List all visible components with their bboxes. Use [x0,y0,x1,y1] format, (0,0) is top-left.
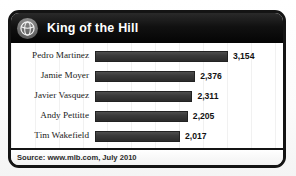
sphere-logo-icon [17,18,38,39]
chart-footer: Source: www.mlb.com, July 2010 [11,148,283,165]
chart-header: King of the Hill [11,13,283,43]
bar-row: Javier Vasquez 2,311 [11,87,283,106]
page-title: King of the Hill [47,22,138,35]
bar-rows: Pedro Martinez 3,154 Jamie Moyer 2,376 J… [11,43,283,148]
bar-row: Andy Pettitte 2,205 [11,107,283,126]
bar-label: Tim Wakefield [11,131,95,140]
bar-row: Pedro Martinez 3,154 [11,47,283,66]
source-note: Source: www.mlb.com, July 2010 [17,154,137,162]
bar-value-label: 2,311 [197,92,218,101]
bar-label: Jamie Moyer [11,71,95,80]
bar-value-label: 2,017 [185,132,207,141]
bar-value-label: 2,205 [193,112,215,121]
bar-fill [95,91,192,102]
chart-plot-area: Pedro Martinez 3,154 Jamie Moyer 2,376 J… [11,43,283,148]
bar-track: 2,376 [95,67,283,86]
bar-fill [95,51,228,62]
bar-label: Andy Pettitte [11,111,95,120]
chart-card: King of the Hill Pedro Martinez 3,154 Ja… [8,10,286,168]
bar-row: Jamie Moyer 2,376 [11,67,283,86]
bar-fill [95,131,180,142]
bar-fill [95,111,188,122]
screenshot-root: King of the Hill Pedro Martinez 3,154 Ja… [0,0,296,176]
bar-label: Pedro Martinez [11,51,95,60]
bar-fill [95,71,195,82]
bar-track: 3,154 [95,47,283,66]
bar-track: 2,205 [95,107,283,126]
bar-track: 2,311 [95,87,283,106]
bar-row: Tim Wakefield 2,017 [11,127,283,146]
bar-track: 2,017 [95,127,283,146]
bar-value-label: 3,154 [233,52,255,61]
bar-value-label: 2,376 [200,72,222,81]
bar-label: Javier Vasquez [11,91,95,100]
